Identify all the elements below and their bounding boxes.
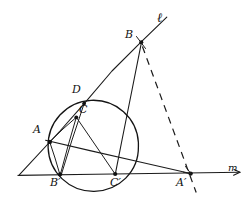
point-A <box>48 140 52 144</box>
circle-shape <box>48 100 138 191</box>
geometry-figure: ℓ B D C A B′ C′ A′ m <box>0 0 249 205</box>
point-B-label: B <box>125 29 133 40</box>
chord-C-Cprime <box>76 117 115 174</box>
point-C <box>74 115 78 119</box>
point-D-label: D <box>72 84 81 95</box>
line-m-label: m <box>228 163 237 173</box>
segment-A-Aprime <box>46 140 192 174</box>
line-l-label: ℓ <box>157 11 162 24</box>
point-Cprime-label: C′ <box>110 177 121 188</box>
point-C-label: C <box>79 104 87 115</box>
chord-C-Bprime <box>60 118 76 175</box>
point-Aprime-label: A′ <box>176 177 186 188</box>
point-Bprime-label: B′ <box>50 177 61 188</box>
point-A-label: A <box>33 124 41 135</box>
